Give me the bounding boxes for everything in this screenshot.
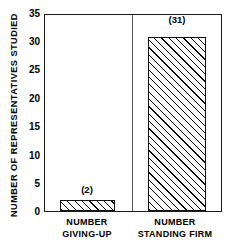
y-tick-label-15: 15 <box>16 122 40 132</box>
category-label-standing-firm-line2: STANDING FIRM <box>121 228 228 240</box>
y-tick-label-35: 35 <box>16 9 40 19</box>
y-tick-label-25: 25 <box>16 65 40 75</box>
bar-giving-up <box>60 200 115 211</box>
category-label-giving-up-line1: NUMBER <box>66 217 107 227</box>
group-divider-line <box>132 15 133 211</box>
bar-standing-firm <box>148 37 206 211</box>
plot-area <box>44 14 222 212</box>
y-tick-label-30: 30 <box>16 37 40 47</box>
bar-value-label-standing-firm: (31) <box>160 15 194 25</box>
y-tick-label-10: 10 <box>16 151 40 161</box>
y-tick-label-5: 5 <box>16 179 40 189</box>
y-axis-tick-labels: 35 30 25 20 15 10 5 0 <box>14 0 40 246</box>
category-label-standing-firm: NUMBER STANDING FIRM <box>121 216 228 240</box>
bar-value-label-giving-up: (2) <box>73 185 101 195</box>
bar-chart-figure: NUMBER OF REPRESENTATIVES STUDIED 35 30 … <box>0 0 228 246</box>
y-tick-label-20: 20 <box>16 94 40 104</box>
category-label-standing-firm-line1: NUMBER <box>154 217 195 227</box>
